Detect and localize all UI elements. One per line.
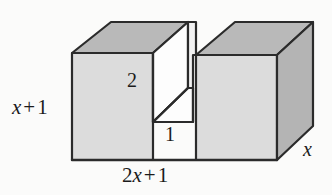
right-block-front-face: [196, 55, 277, 160]
dimension-label-notch-depth: 2: [127, 70, 137, 90]
notch-width-value: 1: [165, 123, 175, 145]
dimension-label-notch-width: 1: [165, 124, 175, 144]
width-coefficient: 2: [122, 163, 133, 187]
height-constant: 1: [37, 95, 48, 119]
dimension-label-width: 2x+1: [122, 165, 168, 186]
depth-variable: x: [303, 138, 312, 160]
notch-right-inner-wall: [188, 22, 196, 88]
dimension-label-depth: x: [303, 139, 312, 159]
height-operator: +: [21, 95, 37, 119]
left-block-front-face: [72, 53, 153, 160]
dimension-label-height: x+1: [12, 97, 48, 118]
width-operator: +: [142, 163, 158, 187]
width-constant: 1: [158, 163, 169, 187]
width-variable: x: [133, 163, 142, 187]
height-variable: x: [12, 95, 21, 119]
notch-depth-value: 2: [127, 69, 137, 91]
figure-container: x+1 2x+1 x 2 1: [0, 0, 332, 195]
